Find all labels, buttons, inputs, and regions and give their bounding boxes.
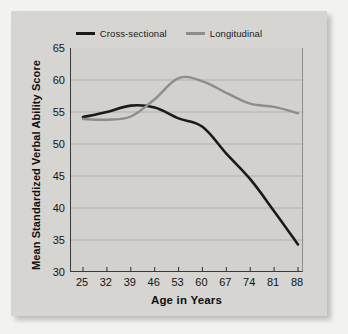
x-axis-tick-marks bbox=[83, 267, 298, 272]
legend-item-longitudinal: Longitudinal bbox=[186, 28, 262, 39]
gridlines bbox=[71, 80, 304, 240]
chart-legend: Cross-sectional Longitudinal bbox=[11, 25, 327, 41]
x-tick-label: 88 bbox=[282, 276, 312, 288]
series-line-longitudinal bbox=[83, 77, 298, 120]
series-lines bbox=[83, 77, 298, 245]
legend-label-longitudinal: Longitudinal bbox=[210, 28, 262, 39]
x-axis-tick-labels: 25323946536067748188 bbox=[70, 276, 303, 292]
figure-panel: Cross-sectional Longitudinal 30354045505… bbox=[11, 11, 327, 316]
plot-area bbox=[70, 48, 303, 272]
legend-label-cross-sectional: Cross-sectional bbox=[100, 28, 167, 39]
legend-swatch-cross-sectional bbox=[76, 32, 95, 35]
legend-item-cross-sectional: Cross-sectional bbox=[76, 28, 167, 39]
x-axis-title: Age in Years bbox=[70, 294, 303, 306]
series-line-cross-sectional bbox=[83, 105, 298, 244]
plot-svg bbox=[71, 48, 304, 272]
y-axis-title: Mean Standardized Verbal Ability Score bbox=[30, 50, 42, 280]
legend-swatch-longitudinal bbox=[186, 32, 205, 35]
